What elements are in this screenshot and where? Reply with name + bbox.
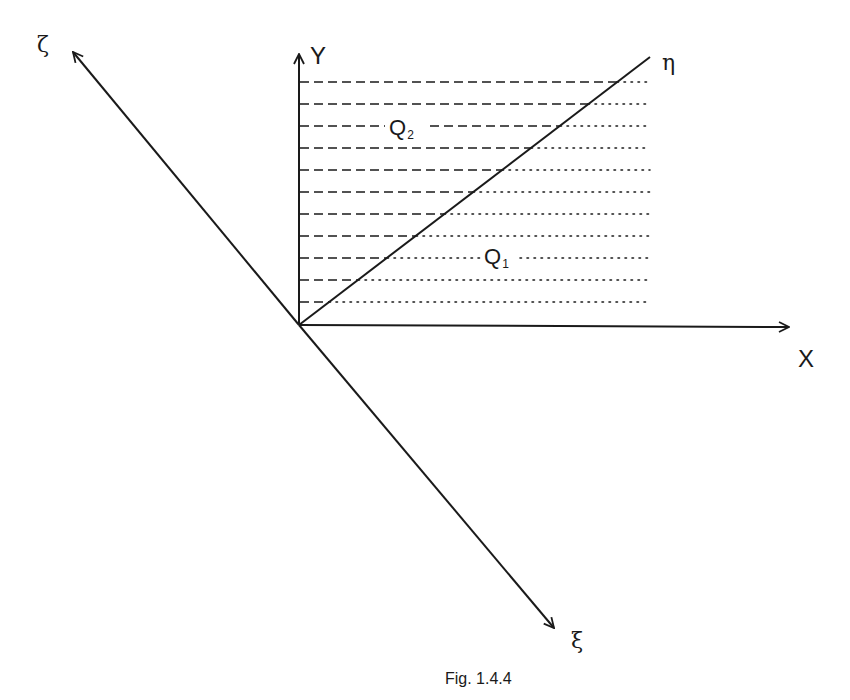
figure-caption: Fig. 1.4.4 [445,671,512,687]
region-q1-subscript: 1 [502,257,509,271]
dashed-hatching [300,82,617,302]
eta-axis [299,57,650,325]
x-axis [299,325,789,327]
x-axis-label: X [798,347,814,371]
coordinate-diagram [0,0,850,700]
region-q2-subscript: 2 [407,128,414,142]
y-axis-label: Y [310,44,326,68]
xi-axis [299,325,554,628]
eta-axis-label: η [662,52,675,74]
xi-axis-label: ξ [571,630,583,652]
region-q1-letter: Q [484,244,501,269]
zeta-axis [73,52,299,325]
region-q2-label: Q2 [389,117,414,141]
region-q1-label: Q1 [484,246,509,270]
region-q2-letter: Q [389,115,406,140]
zeta-axis-label: ζ [37,34,49,56]
